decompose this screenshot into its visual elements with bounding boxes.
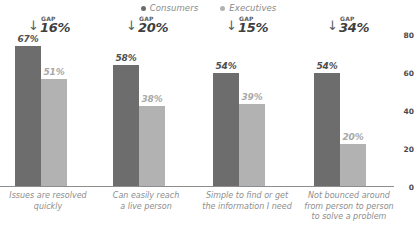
bar-consumers-1[interactable] [15, 46, 41, 186]
bars-3: 54% 39% [213, 16, 265, 186]
bar-value-consumers-2: 58% [113, 53, 139, 63]
dot-icon [141, 6, 146, 11]
bar-executives-4[interactable] [340, 144, 366, 186]
category-label-4: Not bounced around from person to person… [294, 191, 404, 223]
y-axis: 80 60 40 20 0 [396, 16, 417, 188]
grouped-bar-chart: Consumers Executives ↓ GAP 16% 67% [0, 0, 417, 235]
category-label-3: Simple to find or get the information I … [191, 191, 303, 212]
bars-1: 67% 51% [15, 16, 67, 186]
legend-item-consumers[interactable]: Consumers [141, 3, 199, 13]
bar-value-executives-4: 20% [340, 132, 366, 142]
bar-wrap-consumers-3: 54% [213, 16, 239, 186]
plot-area: ↓ GAP 16% 67% 51% ↓ [0, 16, 390, 187]
bars-4: 54% 20% [314, 16, 366, 186]
bar-consumers-2[interactable] [113, 65, 139, 186]
y-tick-40: 40 [396, 107, 414, 116]
bar-wrap-executives-2: 38% [139, 16, 165, 186]
y-tick-60: 60 [396, 69, 414, 78]
axis-baseline [0, 186, 394, 187]
category-label-1-line1: Issues are resolved [0, 191, 100, 202]
bar-value-consumers-1: 67% [15, 34, 41, 44]
bar-executives-1[interactable] [41, 79, 67, 186]
category-label-1: Issues are resolved quickly [0, 191, 100, 212]
chart-legend: Consumers Executives [0, 1, 417, 15]
legend-label-executives: Executives [229, 3, 276, 13]
bar-executives-3[interactable] [239, 104, 265, 186]
bar-wrap-consumers-4: 54% [314, 16, 340, 186]
bar-value-consumers-4: 54% [314, 61, 340, 71]
legend-label-consumers: Consumers [150, 3, 199, 13]
bar-value-executives-3: 39% [239, 92, 265, 102]
dot-icon [220, 6, 225, 11]
y-tick-20: 20 [396, 145, 414, 154]
category-label-1-line2: quickly [0, 202, 100, 213]
category-label-2-line1: Can easily reach [96, 191, 196, 202]
category-label-4-line2: from person to person [294, 202, 404, 213]
bar-wrap-consumers-2: 58% [113, 16, 139, 186]
bars-2: 58% 38% [113, 16, 165, 186]
bar-wrap-executives-3: 39% [239, 16, 265, 186]
bar-wrap-consumers-1: 67% [15, 16, 41, 186]
category-label-2-line2: a live person [96, 202, 196, 213]
bar-wrap-executives-1: 51% [41, 16, 67, 186]
bar-executives-2[interactable] [139, 106, 165, 186]
bar-value-consumers-3: 54% [213, 61, 239, 71]
y-tick-80: 80 [396, 31, 414, 40]
bar-consumers-3[interactable] [213, 73, 239, 186]
bar-value-executives-1: 51% [41, 67, 67, 77]
legend-item-executives[interactable]: Executives [220, 3, 276, 13]
bar-consumers-4[interactable] [314, 73, 340, 186]
category-label-3-line2: the information I need [191, 202, 303, 213]
bar-wrap-executives-4: 20% [340, 16, 366, 186]
category-label-3-line1: Simple to find or get [191, 191, 303, 202]
category-label-4-line1: Not bounced around [294, 191, 404, 202]
category-label-4-line3: to solve a problem [294, 212, 404, 223]
category-label-2: Can easily reach a live person [96, 191, 196, 212]
bar-value-executives-2: 38% [139, 94, 165, 104]
